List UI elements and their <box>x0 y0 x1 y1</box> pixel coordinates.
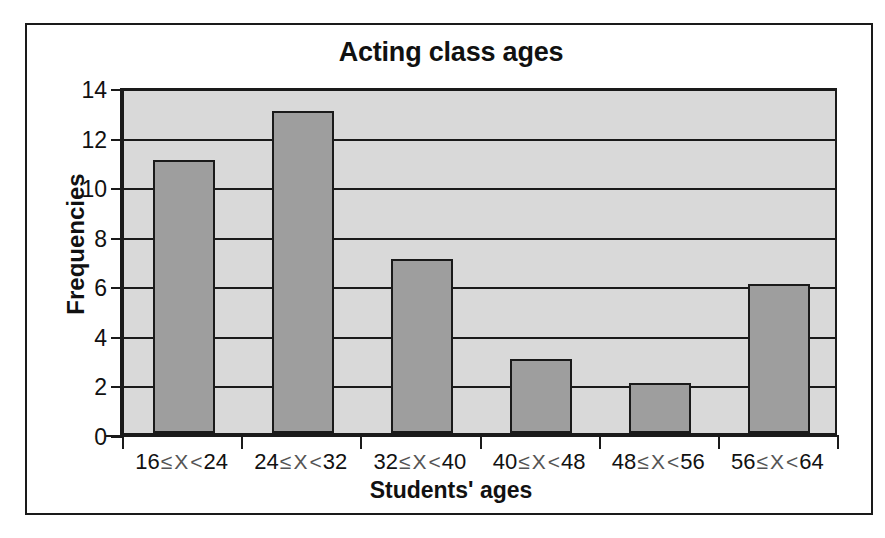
y-tick-mark <box>111 139 124 141</box>
x-tick-label: 56≤X<64 <box>731 449 824 475</box>
x-tick-mark <box>122 435 124 449</box>
y-tick-label: 6 <box>94 275 107 302</box>
figure-frame: Acting class ages Frequencies 0246810121… <box>25 23 873 515</box>
y-tick-mark <box>111 188 124 190</box>
x-tick-label: 48≤X<56 <box>612 449 705 475</box>
y-tick-mark <box>111 386 124 388</box>
bar <box>748 284 810 433</box>
x-tick-label: 32≤X<40 <box>374 449 467 475</box>
x-tick-mark <box>360 435 362 449</box>
bar <box>272 111 334 433</box>
x-tick-mark <box>837 435 839 449</box>
gridline <box>124 386 835 388</box>
bar <box>629 383 691 433</box>
plot-area: 02468101214 <box>122 88 837 435</box>
gridline <box>124 238 835 240</box>
y-tick-mark <box>111 287 124 289</box>
x-tick-mark <box>599 435 601 449</box>
y-tick-label: 14 <box>81 77 107 104</box>
x-tick-mark <box>480 435 482 449</box>
bar <box>153 160 215 433</box>
gridline <box>124 89 835 91</box>
y-tick-label: 4 <box>94 324 107 351</box>
y-tick-mark <box>111 238 124 240</box>
y-tick-label: 0 <box>94 424 107 451</box>
gridline <box>124 188 835 190</box>
gridline <box>124 139 835 141</box>
y-axis-title: Frequencies <box>62 134 90 354</box>
y-tick-mark <box>111 337 124 339</box>
x-axis-line <box>105 435 839 437</box>
chart-title: Acting class ages <box>27 37 875 68</box>
x-tick-mark <box>241 435 243 449</box>
x-tick-mark <box>718 435 720 449</box>
x-tick-label: 24≤X<32 <box>254 449 347 475</box>
y-tick-label: 10 <box>81 176 107 203</box>
y-tick-mark <box>111 89 124 91</box>
x-axis-title: Students' ages <box>27 477 875 504</box>
gridline <box>124 337 835 339</box>
y-tick-label: 12 <box>81 126 107 153</box>
gridline <box>124 287 835 289</box>
x-tick-label: 16≤X<24 <box>135 449 228 475</box>
y-tick-label: 2 <box>94 374 107 401</box>
y-tick-label: 8 <box>94 225 107 252</box>
bar <box>391 259 453 433</box>
bar <box>510 359 572 433</box>
x-tick-label: 40≤X<48 <box>493 449 586 475</box>
